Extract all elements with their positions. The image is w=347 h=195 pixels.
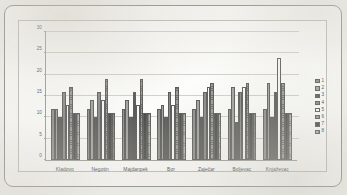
bar-groups: [46, 32, 297, 160]
legend-swatch-icon: [315, 130, 320, 134]
legend-swatch-icon: [315, 115, 320, 119]
y-tick-label: 10: [37, 110, 42, 115]
legend-item[interactable]: 2: [315, 86, 324, 91]
figure-outer-frame: 051015202530 KladovoNegotinMajdanpekBorZ…: [4, 5, 342, 187]
bar-group: [260, 32, 295, 160]
y-tick-label: 30: [37, 25, 42, 30]
bar: [253, 113, 257, 160]
bar-group: [48, 32, 83, 160]
legend-label: 8: [322, 129, 325, 134]
y-tick-label: 15: [37, 89, 42, 94]
legend-item[interactable]: 5: [315, 108, 324, 113]
bar-group: [189, 32, 224, 160]
x-axis-label: Boljevac: [224, 167, 259, 172]
legend-label: 5: [322, 108, 325, 113]
legend-item[interactable]: 1: [315, 79, 324, 84]
legend-item[interactable]: 3: [315, 93, 324, 98]
bar-group: [154, 32, 189, 160]
legend-label: 1: [322, 79, 325, 84]
x-axis-label: Kladovo: [47, 167, 82, 172]
legend-swatch-icon: [315, 101, 320, 105]
legend-swatch-icon: [315, 94, 320, 98]
legend-item[interactable]: 7: [315, 122, 324, 127]
bar: [218, 113, 222, 160]
y-tick-label: 20: [37, 67, 42, 72]
y-tick-label: 25: [37, 46, 42, 51]
plot-area: 051015202530: [45, 32, 297, 161]
x-axis-label: Knjaževac: [260, 167, 295, 172]
y-tick-label: 0: [39, 153, 42, 158]
bar: [182, 113, 186, 160]
x-axis-label: Bor: [153, 167, 188, 172]
chart-legend: 12345678: [315, 79, 324, 134]
plot-axes: 051015202530: [45, 32, 297, 161]
legend-swatch-icon: [315, 122, 320, 126]
bar-group: [83, 32, 118, 160]
bar: [147, 113, 151, 160]
bar-group: [224, 32, 259, 160]
legend-swatch-icon: [315, 108, 320, 112]
legend-label: 2: [322, 86, 325, 91]
x-axis-label: Negotin: [82, 167, 117, 172]
bar-group: [119, 32, 154, 160]
legend-label: 7: [322, 122, 325, 127]
legend-swatch-icon: [315, 79, 320, 83]
bar: [112, 113, 116, 160]
legend-label: 4: [322, 101, 325, 106]
x-axis-label: Majdanpek: [118, 167, 153, 172]
legend-label: 6: [322, 115, 325, 120]
bar: [76, 113, 80, 160]
chart-card: 051015202530 KladovoNegotinMajdanpekBorZ…: [18, 20, 327, 172]
legend-item[interactable]: 4: [315, 101, 324, 106]
legend-label: 3: [322, 93, 325, 98]
bar: [288, 113, 292, 160]
x-axis-label: Zaječar: [189, 167, 224, 172]
x-axis-labels: KladovoNegotinMajdanpekBorZaječarBoljeva…: [45, 167, 297, 172]
legend-item[interactable]: 6: [315, 115, 324, 120]
y-tick-label: 5: [39, 131, 42, 136]
legend-item[interactable]: 8: [315, 129, 324, 134]
legend-swatch-icon: [315, 86, 320, 90]
